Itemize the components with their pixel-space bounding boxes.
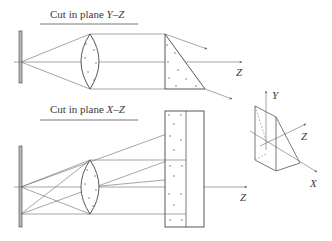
bottom-prism-block bbox=[165, 111, 204, 227]
prism-3d-hidden-bottom bbox=[255, 154, 266, 160]
prism-3d-label-y: Y bbox=[272, 89, 280, 101]
top-grating bbox=[19, 31, 22, 83]
top-panel-yz: Cut in plane Y–Z Z bbox=[14, 8, 243, 99]
top-axis-label-z: Z bbox=[236, 66, 243, 78]
top-lens bbox=[81, 34, 99, 89]
top-prism bbox=[165, 34, 205, 89]
top-ray-lower bbox=[21, 62, 90, 89]
prism-3d-label-z: Z bbox=[301, 130, 308, 142]
prism-3d-bottom-edge bbox=[276, 163, 300, 171]
prism-3d-label-x: X bbox=[309, 177, 318, 189]
prism-3d-hypotenuse bbox=[276, 117, 300, 163]
optical-diagram: Cut in plane Y–Z Z bbox=[0, 0, 332, 241]
top-panel-title: Cut in plane Y–Z bbox=[50, 8, 125, 20]
bottom-panel-xz: Cut in plane X–Z Z bbox=[14, 103, 247, 227]
bottom-ray-oblique-mid bbox=[21, 154, 186, 214]
top-output-ray-lower bbox=[205, 89, 232, 99]
bottom-axis-label-z: Z bbox=[240, 191, 247, 203]
bottom-panel-title: Cut in plane X–Z bbox=[50, 103, 126, 115]
top-ray-upper bbox=[21, 34, 90, 62]
bottom-lens bbox=[81, 160, 99, 214]
bottom-ray-oblique-upper bbox=[21, 127, 186, 187]
prism-3d: Y Z X bbox=[250, 89, 318, 189]
prism-3d-axis-z bbox=[260, 124, 306, 146]
